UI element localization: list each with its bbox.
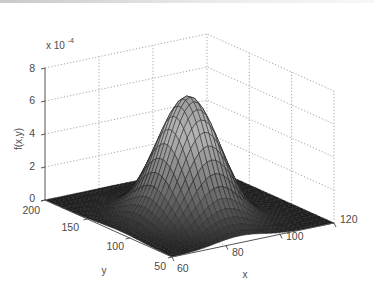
- z-multiplier-label: x 10 -4: [46, 37, 74, 51]
- x-axis-label: x: [243, 269, 248, 280]
- z-tick: 2: [29, 160, 35, 172]
- y-axis-label: y: [102, 265, 107, 276]
- y-tick: 50: [154, 260, 166, 272]
- z-axis-label: f(x,y): [13, 128, 24, 150]
- z-tick: 6: [29, 94, 35, 106]
- x-tick: 60: [177, 262, 189, 274]
- x-tick: 120: [340, 213, 358, 225]
- z-tick: 4: [29, 127, 35, 139]
- y-tick: 150: [61, 221, 79, 233]
- x-tick: 80: [232, 246, 244, 258]
- z-tick-labels: 8 6 4 2 0: [29, 62, 35, 204]
- y-tick: 100: [106, 240, 124, 252]
- x-tick: 100: [286, 230, 304, 242]
- z-tick: 0: [29, 192, 35, 204]
- y-tick: 200: [22, 204, 40, 216]
- z-tick: 8: [29, 62, 35, 74]
- surface-plot: x 10 -4 8 6 4 2 0 f(x,y) 200 150 100 50 …: [0, 0, 375, 292]
